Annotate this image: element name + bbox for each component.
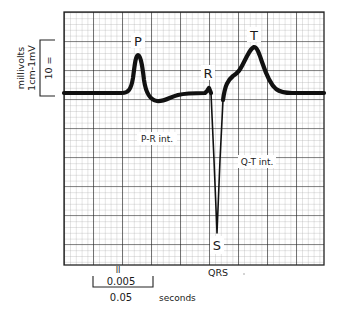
time-scale: II 0.005 0.05 seconds <box>93 266 196 303</box>
qrs-label: QRS <box>208 267 228 278</box>
r-wave-label: R <box>203 66 212 81</box>
ecg-diagram: P R T S P-R int. Q-T int. QRS millivolts… <box>0 0 339 318</box>
s-wave-label: S <box>213 238 221 253</box>
voltage-scale-mark: 10 = <box>43 56 54 79</box>
qt-interval-label: Q-T int. <box>241 157 274 167</box>
time-scale-minor: 0.005 <box>107 276 136 287</box>
time-scale-unit: seconds <box>159 293 196 303</box>
time-scale-tick: II <box>116 266 121 275</box>
voltage-scale: millivolts 1cm-1mV 10 = <box>15 40 55 96</box>
qrs-dot <box>243 273 244 274</box>
t-wave-label: T <box>249 28 258 43</box>
ecg-grid <box>64 12 324 265</box>
time-scale-major: 0.05 <box>110 292 132 303</box>
voltage-scale-subtitle: 1cm-1mV <box>26 45 37 91</box>
p-wave-label: P <box>134 34 142 49</box>
voltage-scale-title: millivolts <box>15 47 26 90</box>
pr-interval-label: P-R int. <box>141 134 173 144</box>
